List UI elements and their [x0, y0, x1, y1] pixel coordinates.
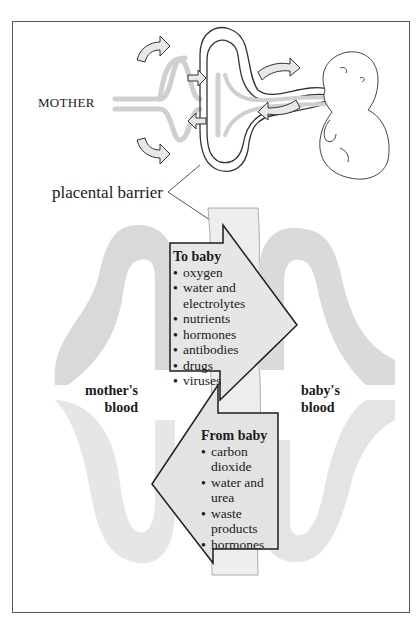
mother-vessels-icon	[115, 58, 200, 140]
to-baby-item: viruses	[173, 373, 283, 389]
baby-blood-label: baby's blood	[301, 382, 340, 416]
from-baby-title: From baby	[201, 428, 281, 444]
to-baby-item: antibodies	[173, 342, 283, 358]
from-baby-item: hormones	[201, 537, 281, 553]
mother-blood-line1: mother's	[60, 382, 138, 399]
mother-blood-label: mother's blood	[60, 382, 138, 416]
to-baby-item: water and electrolytes	[173, 280, 263, 311]
baby-illustration-icon	[320, 52, 389, 179]
to-baby-list: To baby oxygen water and electrolytes nu…	[173, 249, 283, 389]
from-baby-item: carbon dioxide	[201, 444, 281, 475]
mother-blood-vessel	[55, 225, 175, 385]
to-baby-item: nutrients	[173, 311, 283, 327]
to-baby-item: oxygen	[173, 265, 283, 281]
to-baby-item: drugs	[173, 358, 283, 374]
mother-blood-line2: blood	[60, 399, 138, 416]
from-baby-item: waste products	[201, 506, 281, 537]
placental-barrier-label: placental barrier	[52, 183, 163, 203]
from-baby-list: From baby carbon dioxide water and urea …	[201, 428, 281, 552]
from-baby-item: water and urea	[201, 475, 281, 506]
to-baby-title: To baby	[173, 249, 283, 265]
to-baby-item: hormones	[173, 327, 283, 343]
umbilical-cord-icon	[218, 75, 333, 135]
baby-blood-vessel-lower	[262, 400, 395, 562]
baby-blood-line2: blood	[301, 399, 340, 416]
baby-blood-line1: baby's	[301, 382, 340, 399]
mother-label: MOTHER	[38, 95, 95, 111]
barrier-leader-lines	[168, 165, 213, 222]
